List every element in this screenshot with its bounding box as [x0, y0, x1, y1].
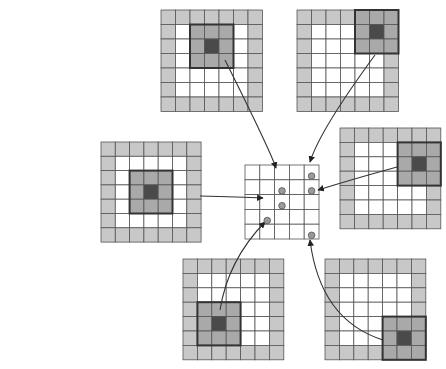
grid-cell [370, 54, 385, 69]
grid-cell [383, 345, 397, 359]
grid-cell [383, 273, 397, 287]
grid-cell [205, 25, 220, 40]
grid-cell [339, 345, 353, 359]
grid-cell [144, 156, 158, 170]
grid-cell [354, 200, 368, 214]
grid-cell [384, 39, 399, 54]
grid-cell [341, 39, 356, 54]
grid-cell [130, 228, 144, 242]
grid-cell [197, 331, 211, 345]
grid-cell [340, 142, 354, 156]
output-cell [275, 224, 290, 239]
convolution-diagram [0, 0, 446, 369]
grid-cell [255, 331, 269, 345]
grid-cell [411, 288, 425, 302]
grid-cell [248, 54, 263, 69]
grid-cell [205, 97, 220, 112]
grid-cell [384, 97, 399, 112]
grid-cell [190, 25, 205, 40]
grid-cell [176, 97, 191, 112]
grid-cell [219, 39, 234, 54]
grid-cell [368, 259, 382, 273]
grid-cell [197, 288, 211, 302]
grid-cell [370, 10, 385, 25]
grid-cell [355, 83, 370, 98]
grid-cell [161, 97, 176, 112]
grid-cell [144, 199, 158, 213]
grid-cell [269, 317, 283, 331]
grid-cell [383, 317, 397, 331]
grid-cell [354, 128, 368, 142]
grid-cell [426, 186, 440, 200]
grid-cell [354, 288, 368, 302]
grid-cell [325, 317, 339, 331]
grid-top-right [297, 10, 399, 112]
grid-cell [426, 171, 440, 185]
grid-cell [368, 273, 382, 287]
grid-cell [130, 171, 144, 185]
grid-cell [297, 10, 312, 25]
grid-cell [355, 39, 370, 54]
grid-cell [269, 331, 283, 345]
grid-cell [101, 156, 115, 170]
grid-cell [234, 54, 249, 69]
grid-bottom [183, 259, 284, 360]
grid-cell [369, 142, 383, 156]
grid-cell [370, 97, 385, 112]
grid-cell [326, 25, 341, 40]
grid-cell [412, 214, 426, 228]
output-cell [289, 180, 304, 195]
grid-cell [355, 25, 370, 40]
grid-cell [212, 302, 226, 316]
grid-cell [297, 54, 312, 69]
grid-cell [183, 259, 197, 273]
grid-cell [226, 345, 240, 359]
grid-cell [197, 302, 211, 316]
grid-cell [412, 157, 426, 171]
grid-cell [411, 302, 425, 316]
grid-cell [144, 214, 158, 228]
grid-cell [190, 97, 205, 112]
grid-cell [187, 171, 201, 185]
grid-cell [426, 157, 440, 171]
grid-cell [325, 273, 339, 287]
grid-cell [241, 317, 255, 331]
grid-cell [158, 228, 172, 242]
grid-cell [241, 331, 255, 345]
grid-cell [326, 39, 341, 54]
grid-cell [205, 10, 220, 25]
grid-cell [340, 186, 354, 200]
grid-cell [326, 97, 341, 112]
grid-cell [354, 259, 368, 273]
grid-cell [197, 259, 211, 273]
grid-cell [226, 302, 240, 316]
grid-cell [226, 273, 240, 287]
grid-cell [383, 288, 397, 302]
grid-cell [370, 68, 385, 83]
grid-cell [234, 97, 249, 112]
grid-cell [183, 302, 197, 316]
grid-cell [341, 10, 356, 25]
grid-cell [130, 214, 144, 228]
grid-cell [398, 214, 412, 228]
grid-cell [398, 171, 412, 185]
grid-cell [226, 331, 240, 345]
grid-cell [397, 259, 411, 273]
grid-cell [355, 10, 370, 25]
grid-cell [369, 200, 383, 214]
grid-cell [190, 68, 205, 83]
grid-cell [326, 10, 341, 25]
grid-cell [130, 199, 144, 213]
grid-cell [241, 302, 255, 316]
grid-cell [219, 68, 234, 83]
grid-cell [130, 142, 144, 156]
grid-cell [368, 302, 382, 316]
grid-cell [297, 68, 312, 83]
grid-cell [312, 25, 327, 40]
grid-cell [190, 83, 205, 98]
grid-cell [412, 200, 426, 214]
sample-dot [264, 217, 271, 224]
grid-cell [312, 97, 327, 112]
grid-cell [326, 68, 341, 83]
grid-cell [205, 39, 220, 54]
